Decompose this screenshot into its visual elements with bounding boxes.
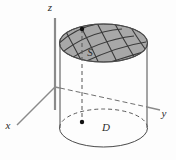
x-axis-line [17,87,55,125]
surface-s-label: S [87,46,93,58]
z-axis-label: z [47,1,53,13]
figure-container: z y x S D [0,0,176,160]
surface-s [56,21,154,67]
y-axis-segment-hidden [60,88,147,107]
region-d-label: D [101,121,110,133]
surface-over-region-diagram: z y x S D [0,0,176,160]
y-axis-label: y [161,107,167,119]
y-axis-segment-back [147,107,160,110]
x-axis-label: x [5,119,11,131]
domain-point-marker [80,120,84,124]
surface-point-marker [80,27,84,31]
